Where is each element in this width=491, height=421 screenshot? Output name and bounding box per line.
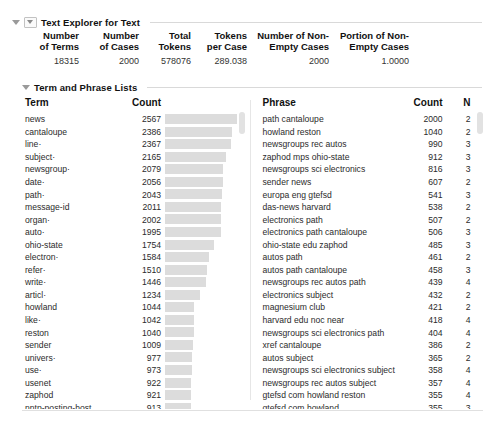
phrase-count: 816 <box>403 164 449 174</box>
term-bar-cell <box>164 326 242 339</box>
term-list-row[interactable]: reston1040 <box>22 326 246 339</box>
term-label: like· <box>22 315 123 325</box>
phrase-label: das-news harvard <box>260 202 403 212</box>
phrase-list-row[interactable]: newsgroups sci electronics path4044 <box>260 326 484 339</box>
term-list-scrollbar[interactable] <box>239 112 246 409</box>
outline-term-and-phrase-lists-row[interactable]: Term and Phrase Lists <box>22 80 482 94</box>
phrase-list-row[interactable]: magnesium club4212 <box>260 301 484 314</box>
phrase-list-row[interactable]: electronics path5072 <box>260 213 484 226</box>
phrase-list-row[interactable]: sender news6072 <box>260 176 484 189</box>
term-list-row[interactable]: electron·1584 <box>22 251 246 264</box>
summary-header-line-2: Empty Cases <box>349 41 409 52</box>
term-count: 1234 <box>123 290 164 300</box>
phrase-list-row[interactable]: gtefsd com howland3553 <box>260 402 484 409</box>
term-list-row[interactable]: newsgroup·2079 <box>22 163 246 176</box>
term-list-row[interactable]: nntp-posting-host913 <box>22 402 246 409</box>
phrase-list-row[interactable]: newsgroups sci electronics8163 <box>260 163 484 176</box>
term-list-row[interactable]: message-id2011 <box>22 201 246 214</box>
phrase-list-row[interactable]: ohio-state edu zaphod4853 <box>260 238 484 251</box>
term-count: 1754 <box>123 240 164 250</box>
phrase-label: path cantaloupe <box>260 114 403 124</box>
phrase-label: autos path <box>260 252 403 262</box>
term-bar-cell <box>164 201 242 214</box>
phrase-list-row[interactable]: autos subject3652 <box>260 351 484 364</box>
term-count-bar <box>165 177 223 187</box>
phrase-list-scrollbar-thumb[interactable] <box>477 112 483 134</box>
phrase-n-column-header[interactable]: N <box>449 97 473 108</box>
term-bar-cell <box>164 151 242 164</box>
phrase-list-row[interactable]: electronics subject4322 <box>260 289 484 302</box>
phrase-n: 4 <box>449 378 473 388</box>
term-bar-cell <box>164 188 242 201</box>
phrase-n: 2 <box>449 302 473 312</box>
phrase-list-row[interactable]: electronics path cantaloupe5063 <box>260 226 484 239</box>
phrase-count: 439 <box>403 277 449 287</box>
phrase-list-row[interactable]: newsgroups sci electronics subject3584 <box>260 364 484 377</box>
term-list-row[interactable]: sender1009 <box>22 339 246 352</box>
phrase-list-row[interactable]: gtefsd com howland reston3554 <box>260 389 484 402</box>
term-list-row[interactable]: write·1446 <box>22 276 246 289</box>
disclosure-triangle-box-icon[interactable] <box>24 17 37 28</box>
phrase-label: newsgroups sci electronics subject <box>260 365 403 375</box>
phrase-list-scrollbar[interactable] <box>476 112 483 409</box>
term-list-row[interactable]: articl·1234 <box>22 289 246 302</box>
term-count: 2367 <box>123 139 164 149</box>
term-list-body[interactable]: news2567cantaloupe2386line·2367subject·2… <box>22 113 246 409</box>
phrase-n: 2 <box>449 290 473 300</box>
term-list-row[interactable]: news2567 <box>22 113 246 126</box>
phrase-list-row[interactable]: autos path4612 <box>260 251 484 264</box>
phrase-label: ohio-state edu zaphod <box>260 240 403 250</box>
outline-root-row[interactable]: Text Explorer for Text <box>12 15 482 29</box>
term-count: 1044 <box>123 302 164 312</box>
disclosure-triangle-icon[interactable] <box>12 18 20 26</box>
phrase-list-row[interactable]: zaphod mps ohio-state9123 <box>260 151 484 164</box>
term-list-row[interactable]: auto·1995 <box>22 226 246 239</box>
phrase-list-row[interactable]: newsgroups rec autos path4394 <box>260 276 484 289</box>
phrase-n: 2 <box>449 252 473 262</box>
phrase-column-header[interactable]: Phrase <box>260 97 403 108</box>
term-list-row[interactable]: zaphod921 <box>22 389 246 402</box>
phrase-list-row[interactable]: path cantaloupe20002 <box>260 113 484 126</box>
term-column-header[interactable]: Term <box>22 97 123 108</box>
term-list-row[interactable]: howland1044 <box>22 301 246 314</box>
term-count: 2386 <box>123 127 164 137</box>
term-label: use· <box>22 365 123 375</box>
phrase-n: 3 <box>449 403 473 409</box>
term-count-bar <box>165 340 193 350</box>
phrase-list-row[interactable]: das-news harvard5382 <box>260 201 484 214</box>
phrase-list-row[interactable]: europa eng gtefsd5413 <box>260 188 484 201</box>
phrase-count: 2000 <box>403 114 449 124</box>
term-list-row[interactable]: univers·977 <box>22 351 246 364</box>
phrase-count-column-header[interactable]: Count <box>403 97 449 108</box>
term-list-row[interactable]: line·2367 <box>22 138 246 151</box>
phrase-n: 2 <box>449 202 473 212</box>
phrase-count: 418 <box>403 315 449 325</box>
phrase-list-row[interactable]: newsgroups rec autos9903 <box>260 138 484 151</box>
phrase-label: newsgroups rec autos <box>260 139 403 149</box>
term-count: 1009 <box>123 340 164 350</box>
term-list-row[interactable]: usenet922 <box>22 376 246 389</box>
phrase-list-body[interactable]: path cantaloupe20002howland reston10402n… <box>260 113 484 409</box>
phrase-count: 404 <box>403 328 449 338</box>
term-count-bar <box>165 390 191 400</box>
term-label: univers· <box>22 353 123 363</box>
term-list-row[interactable]: organ·2002 <box>22 213 246 226</box>
phrase-list-row[interactable]: newsgroups rec autos subject3574 <box>260 376 484 389</box>
phrase-list-row[interactable]: harvard edu noc near4184 <box>260 314 484 327</box>
term-list-row[interactable]: subject·2165 <box>22 151 246 164</box>
term-list-row[interactable]: date·2056 <box>22 176 246 189</box>
term-count-column-header[interactable]: Count <box>123 97 164 108</box>
phrase-list-row[interactable]: xref cantaloupe3862 <box>260 339 484 352</box>
term-list-row[interactable]: use·973 <box>22 364 246 377</box>
term-list-row[interactable]: refer·1510 <box>22 264 246 277</box>
phrase-list-row[interactable]: howland reston10402 <box>260 126 484 139</box>
summary-header-line-2: of Cases <box>99 41 139 52</box>
disclosure-triangle-icon[interactable] <box>22 83 30 91</box>
phrase-list-row[interactable]: autos path cantaloupe4583 <box>260 264 484 277</box>
summary-header-line-1: Total <box>169 30 191 41</box>
term-list-row[interactable]: cantaloupe2386 <box>22 126 246 139</box>
term-list-row[interactable]: ohio-state1754 <box>22 238 246 251</box>
term-list-row[interactable]: path·2043 <box>22 188 246 201</box>
term-list-scrollbar-thumb[interactable] <box>239 112 245 134</box>
term-list-row[interactable]: like·1042 <box>22 314 246 327</box>
